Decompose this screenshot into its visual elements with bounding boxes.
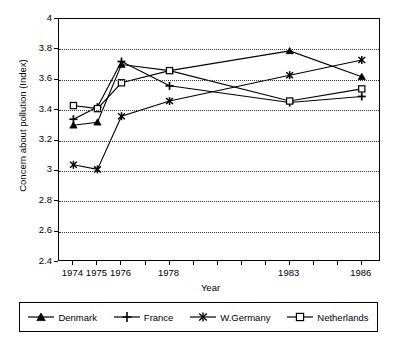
- x-tick-mark: [265, 261, 266, 265]
- y-tick-label: 3.4: [24, 103, 52, 114]
- open-square-marker: [70, 102, 76, 108]
- y-tick-label: 2.6: [24, 224, 52, 235]
- legend-label-netherlands: Netherlands: [317, 312, 368, 323]
- triangle-marker: [358, 73, 365, 79]
- y-tick-label: 3.6: [24, 72, 52, 83]
- y-tick-mark: [54, 170, 58, 171]
- x-tick-mark: [193, 261, 194, 265]
- plus-marker: [166, 82, 174, 90]
- x-tick-label: 1974: [62, 267, 83, 278]
- legend-label-wgermany: W.Germany: [220, 312, 270, 323]
- y-tick-mark: [54, 140, 58, 141]
- series-denmark: [70, 47, 366, 128]
- y-tick-label: 4: [24, 12, 52, 23]
- x-tick-mark: [96, 261, 97, 265]
- x-tick-mark: [120, 261, 121, 265]
- x-tick-mark: [313, 261, 314, 265]
- y-tick-mark: [54, 48, 58, 49]
- plot-wrapper: Concern about pollution (Index) 2.42.62.…: [0, 0, 397, 300]
- x-tick-mark: [289, 261, 290, 265]
- gridline: [59, 80, 379, 81]
- y-tick-mark: [54, 231, 58, 232]
- plus-icon: [114, 311, 140, 323]
- plus-marker: [358, 92, 366, 100]
- y-tick-mark: [54, 109, 58, 110]
- gridline: [59, 110, 379, 111]
- x-tick-label: 1975: [86, 267, 107, 278]
- x-tick-mark: [169, 261, 170, 265]
- legend-label-france: France: [144, 312, 174, 323]
- x-tick-label: 1986: [350, 267, 371, 278]
- asterisk-marker: [118, 112, 125, 120]
- legend-item-france[interactable]: France: [114, 311, 174, 323]
- y-tick-mark: [54, 79, 58, 80]
- chart-legend: Denmark France W.Germany Neth: [19, 302, 378, 332]
- triangle-marker: [94, 119, 101, 125]
- x-tick-mark: [145, 261, 146, 265]
- gridline: [59, 171, 379, 172]
- asterisk-icon: [190, 311, 216, 323]
- x-tick-mark: [217, 261, 218, 265]
- y-tick-label: 3.8: [24, 42, 52, 53]
- y-tick-mark: [54, 200, 58, 201]
- x-tick-mark: [337, 261, 338, 265]
- y-tick-mark: [54, 261, 58, 262]
- x-tick-mark: [72, 261, 73, 265]
- open-square-icon: [287, 311, 313, 323]
- y-tick-mark: [54, 18, 58, 19]
- x-tick-mark: [361, 261, 362, 265]
- gridline: [59, 201, 379, 202]
- legend-label-denmark: Denmark: [58, 312, 97, 323]
- gridline: [59, 49, 379, 50]
- open-square-marker: [359, 86, 365, 92]
- legend-item-denmark[interactable]: Denmark: [28, 311, 97, 323]
- x-tick-label: 1983: [278, 267, 299, 278]
- chart-figure: Concern about pollution (Index) 2.42.62.…: [0, 0, 397, 343]
- legend-item-wgermany[interactable]: W.Germany: [190, 311, 270, 323]
- open-square-marker: [166, 68, 172, 74]
- y-tick-label: 2.4: [24, 255, 52, 266]
- x-tick-label: 1976: [110, 267, 131, 278]
- x-axis-title: Year: [12, 282, 397, 293]
- x-tick-label: 1978: [158, 267, 179, 278]
- plot-area: [58, 18, 380, 261]
- triangle-icon: [28, 311, 54, 323]
- y-tick-label: 3: [24, 163, 52, 174]
- gridline: [59, 232, 379, 233]
- plus-marker: [117, 58, 125, 66]
- open-square-marker: [287, 98, 293, 104]
- plus-marker: [69, 115, 77, 123]
- legend-item-netherlands[interactable]: Netherlands: [287, 311, 368, 323]
- y-tick-label: 2.8: [24, 194, 52, 205]
- series-wgermany: [70, 56, 365, 173]
- x-tick-mark: [241, 261, 242, 265]
- gridline: [59, 141, 379, 142]
- y-tick-label: 3.2: [24, 133, 52, 144]
